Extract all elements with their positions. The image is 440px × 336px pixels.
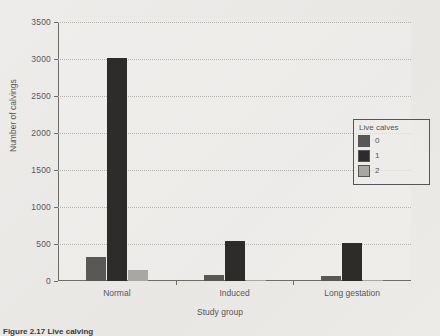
- y-axis-line: [58, 22, 59, 281]
- y-tick-label: 3500: [31, 17, 51, 27]
- y-tick-mark: [54, 170, 58, 171]
- bar-induced-2: [246, 280, 266, 281]
- legend-rows: 012: [358, 135, 425, 177]
- bar-normal-2: [128, 270, 148, 281]
- legend-item-1[interactable]: 1: [358, 150, 425, 162]
- bar-long-gestation-1: [342, 243, 362, 281]
- y-tick-mark: [54, 281, 58, 282]
- bar-long-gestation-2: [363, 280, 383, 281]
- legend: Live calves 012: [353, 119, 430, 185]
- bar-induced-1: [225, 241, 245, 281]
- y-tick-mark: [54, 244, 58, 245]
- legend-swatch-icon: [358, 135, 370, 147]
- y-tick-label: 2000: [31, 128, 51, 138]
- y-tick-mark: [54, 207, 58, 208]
- x-tick-mark: [176, 281, 177, 285]
- x-tick-label: Normal: [103, 288, 130, 298]
- gridline: [58, 22, 411, 23]
- x-tick-label: Induced: [219, 288, 249, 298]
- x-axis-title: Study group: [0, 307, 440, 317]
- y-tick-label: 2500: [31, 91, 51, 101]
- y-tick-label: 1000: [31, 202, 51, 212]
- y-tick-mark: [54, 22, 58, 23]
- y-tick-mark: [54, 96, 58, 97]
- legend-swatch-icon: [358, 165, 370, 177]
- y-axis-title: Number of calvings: [8, 79, 18, 152]
- bar-normal-1: [107, 58, 127, 281]
- legend-item-label: 2: [375, 167, 379, 175]
- legend-item-2[interactable]: 2: [358, 165, 425, 177]
- legend-item-label: 1: [375, 152, 379, 160]
- y-tick-mark: [54, 59, 58, 60]
- figure-caption: Figure 2.17 Live calving: [3, 327, 433, 336]
- legend-item-0[interactable]: 0: [358, 135, 425, 147]
- y-tick-label: 500: [36, 239, 51, 249]
- y-tick-label: 1500: [31, 165, 51, 175]
- y-tick-label: 3000: [31, 54, 51, 64]
- figure-container: 0500100015002000250030003500 NormalInduc…: [0, 0, 440, 336]
- legend-item-label: 0: [375, 137, 379, 145]
- bar-normal-0: [86, 257, 106, 281]
- y-tick-label: 0: [46, 276, 51, 286]
- bar-long-gestation-0: [321, 276, 341, 281]
- bar-induced-0: [204, 275, 224, 281]
- x-tick-mark: [293, 281, 294, 285]
- legend-title: Live calves: [358, 123, 425, 132]
- y-tick-mark: [54, 133, 58, 134]
- x-tick-label: Long gestation: [324, 288, 380, 298]
- legend-swatch-icon: [358, 150, 370, 162]
